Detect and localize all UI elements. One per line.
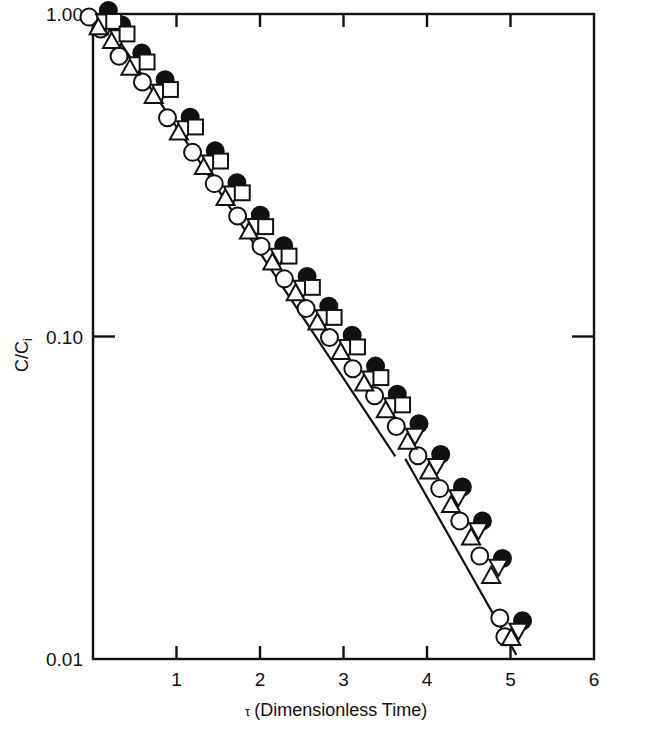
- x-tick-label-1: 1: [171, 669, 182, 690]
- marker-open-circle-6: [206, 175, 223, 192]
- marker-open-square-1: [120, 27, 135, 42]
- marker-open-circle-7: [229, 208, 246, 225]
- x-axis-ticks: [177, 646, 511, 659]
- marker-open-circle-12: [344, 360, 361, 377]
- marker-open-circle-4: [159, 109, 176, 126]
- marker-open-circle-8: [253, 238, 270, 255]
- marker-open-circle-3: [134, 73, 151, 90]
- figure-panel: 123456 1.000.100.01 τ(Dimensionless Time…: [0, 0, 656, 738]
- marker-open-square-6: [235, 185, 250, 200]
- x-tick-label-3: 3: [338, 669, 349, 690]
- x-axis-title-text: (Dimensionless Time): [254, 700, 427, 720]
- marker-open-square-2: [140, 55, 155, 70]
- marker-open-circle-2: [111, 48, 128, 65]
- marker-open-circle-14: [388, 418, 405, 435]
- svg-text:C/Ci: C/Ci: [12, 338, 35, 372]
- x-axis-ticks-top: [177, 14, 511, 27]
- marker-open-circle-9: [276, 270, 293, 287]
- marker-open-square-4: [188, 120, 203, 135]
- y-axis-title-subscript: i: [20, 338, 35, 341]
- marker-open-circle-11: [321, 329, 338, 346]
- y-axis-tick-labels: 1.000.100.01: [46, 4, 83, 670]
- y-axis-title-text: C/C: [12, 341, 32, 372]
- marker-open-circle-18: [471, 548, 488, 565]
- marker-open-square-9: [305, 280, 320, 295]
- marker-open-square-8: [282, 249, 297, 264]
- marker-open-circle-17: [451, 512, 468, 529]
- marker-open-square-12: [373, 370, 388, 385]
- data-markers: [81, 2, 532, 645]
- x-tick-label-4: 4: [422, 669, 433, 690]
- marker-open-circle-19: [491, 609, 508, 626]
- marker-open-square-13: [395, 397, 410, 412]
- marker-open-square-3: [163, 82, 178, 97]
- marker-open-square-5: [213, 154, 228, 169]
- semilog-decay-chart: 123456 1.000.100.01 τ(Dimensionless Time…: [0, 0, 656, 738]
- marker-open-square-11: [350, 340, 365, 355]
- x-axis-tick-labels: 123456: [171, 669, 599, 690]
- x-axis-title: τ(Dimensionless Time): [245, 700, 427, 720]
- marker-open-square-10: [327, 310, 342, 325]
- y-tick-label-0.01: 0.01: [46, 649, 83, 670]
- y-tick-label-0.10: 0.10: [46, 327, 83, 348]
- svg-text:τ(Dimensionless Time): τ(Dimensionless Time): [245, 700, 427, 720]
- x-tick-label-5: 5: [505, 669, 516, 690]
- tau-symbol: τ: [245, 704, 251, 719]
- y-axis-title: C/Ci: [12, 338, 35, 372]
- marker-open-square-7: [258, 219, 273, 234]
- x-tick-label-6: 6: [589, 669, 600, 690]
- marker-open-circle-10: [298, 300, 315, 317]
- x-tick-label-2: 2: [255, 669, 266, 690]
- y-tick-label-1.00: 1.00: [46, 4, 83, 25]
- marker-open-circle-5: [184, 144, 201, 161]
- marker-open-circle-16: [431, 480, 448, 497]
